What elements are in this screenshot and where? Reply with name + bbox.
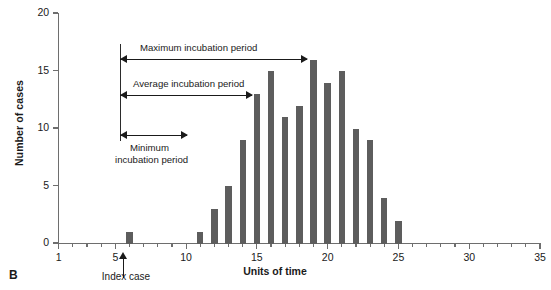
- x-tick-minor: [101, 243, 102, 247]
- bar: [282, 117, 288, 244]
- x-tick-minor: [511, 243, 512, 247]
- x-tick-minor: [228, 243, 229, 247]
- average-incubation-label: Average incubation period: [133, 78, 244, 90]
- x-tick-minor: [157, 243, 158, 247]
- bar: [324, 83, 330, 244]
- x-tick-label: 10: [173, 251, 199, 263]
- bar: [395, 221, 401, 244]
- bar: [353, 129, 359, 244]
- bar: [126, 232, 132, 244]
- x-tick-label: 1: [46, 251, 72, 263]
- minimum-incubation-arrow: [120, 131, 187, 140]
- x-tick-minor: [214, 243, 215, 247]
- maximum-incubation-label: Maximum incubation period: [140, 42, 257, 54]
- x-tick-minor: [171, 243, 172, 247]
- minimum-incubation-label-line2: incubation period: [115, 154, 188, 166]
- bar: [339, 71, 345, 244]
- x-tick-minor: [525, 243, 526, 247]
- bar: [225, 186, 231, 244]
- x-tick-minor: [242, 243, 243, 247]
- bar: [254, 94, 260, 244]
- x-tick-major: [115, 243, 116, 249]
- maximum-incubation-arrow: [120, 55, 307, 64]
- x-tick-major: [256, 243, 257, 249]
- x-tick-label: 35: [527, 251, 551, 263]
- bar: [367, 140, 373, 244]
- x-tick-minor: [384, 243, 385, 247]
- x-tick-label: 20: [315, 251, 341, 263]
- x-tick-minor: [72, 243, 73, 247]
- x-tick-minor: [341, 243, 342, 247]
- x-tick-major: [539, 243, 540, 249]
- x-tick-minor: [313, 243, 314, 247]
- x-tick-minor: [143, 243, 144, 247]
- x-tick-label: 30: [456, 251, 482, 263]
- x-tick-major: [58, 243, 59, 249]
- x-tick-label: 15: [244, 251, 270, 263]
- x-tick-minor: [412, 243, 413, 247]
- bar: [310, 60, 316, 244]
- bar: [240, 140, 246, 244]
- x-tick-minor: [440, 243, 441, 247]
- average-incubation-arrow: [120, 91, 252, 100]
- x-tick-major: [186, 243, 187, 249]
- x-axis-title: Units of time: [185, 265, 365, 277]
- x-tick-minor: [270, 243, 271, 247]
- bar: [211, 209, 217, 244]
- bar: [197, 232, 203, 244]
- bar-series: [0, 0, 541, 244]
- x-tick-label: 25: [385, 251, 411, 263]
- bar: [296, 106, 302, 244]
- panel-letter: B: [9, 268, 18, 282]
- x-tick-minor: [200, 243, 201, 247]
- x-tick-major: [469, 243, 470, 249]
- minimum-incubation-label-line1: Minimum: [130, 142, 169, 154]
- x-tick-minor: [483, 243, 484, 247]
- index-case-label: Index case: [86, 271, 166, 282]
- x-tick-minor: [497, 243, 498, 247]
- bar: [381, 198, 387, 244]
- x-tick-minor: [370, 243, 371, 247]
- x-tick-minor: [86, 243, 87, 247]
- x-tick-minor: [299, 243, 300, 247]
- bar: [268, 71, 274, 244]
- x-tick-major: [398, 243, 399, 249]
- x-tick-minor: [129, 243, 130, 247]
- x-tick-minor: [355, 243, 356, 247]
- x-tick-minor: [454, 243, 455, 247]
- x-tick-minor: [426, 243, 427, 247]
- x-tick-major: [327, 243, 328, 249]
- x-tick-minor: [285, 243, 286, 247]
